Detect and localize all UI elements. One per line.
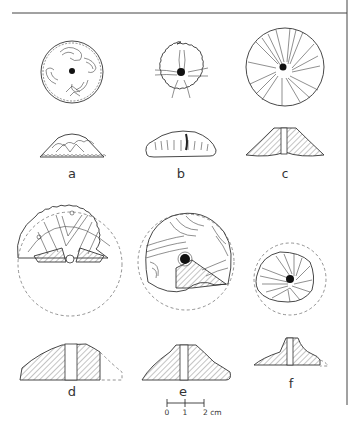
whorl-d-section xyxy=(20,344,122,380)
label-d: d xyxy=(68,384,76,399)
whorl-c-section xyxy=(246,128,324,156)
whorl-c-plan xyxy=(246,28,324,106)
scale-tick-2: 2 cm xyxy=(203,408,222,417)
whorl-a-section xyxy=(40,134,106,157)
label-f: f xyxy=(289,376,294,391)
label-e: e xyxy=(179,384,187,399)
scale-tick-0: 0 xyxy=(165,408,170,417)
scale-bar: 0 1 2 cm xyxy=(165,399,222,417)
whorl-f-section xyxy=(254,338,328,366)
whorl-b-plan xyxy=(155,42,208,98)
whorl-a-plan xyxy=(41,41,103,103)
whorl-e-section xyxy=(142,345,231,380)
whorl-e-plan xyxy=(138,213,234,310)
plate-drawing: a b c xyxy=(0,0,355,435)
whorl-b-section xyxy=(146,131,216,157)
whorl-d-plan xyxy=(17,205,122,316)
scale-tick-1: 1 xyxy=(183,408,188,417)
label-c: c xyxy=(282,167,289,181)
label-a: a xyxy=(68,166,76,181)
whorl-f-plan xyxy=(254,243,326,315)
label-b: b xyxy=(177,166,185,181)
